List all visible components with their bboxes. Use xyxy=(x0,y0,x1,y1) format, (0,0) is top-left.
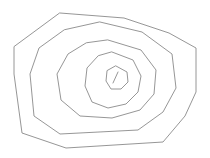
contour-ring-5-inner xyxy=(106,66,128,89)
contour-ring-group xyxy=(14,13,196,148)
contour-center-tick xyxy=(113,72,118,83)
contour-ring-1-outer xyxy=(14,13,196,148)
contour-plot xyxy=(0,0,210,158)
figure-canvas xyxy=(0,0,210,158)
contour-ring-4 xyxy=(85,52,141,108)
